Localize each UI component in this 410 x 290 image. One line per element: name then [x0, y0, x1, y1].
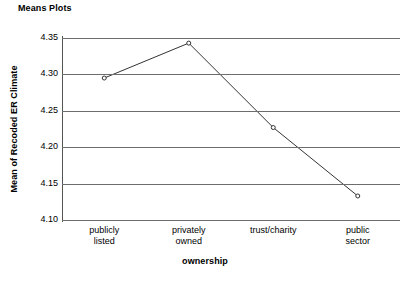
x-tick-label-line: privately	[172, 225, 206, 236]
gridline-4.15	[62, 184, 400, 185]
y-tick-label: 4.35	[28, 33, 58, 42]
chart-title: Means Plots	[18, 3, 72, 13]
y-tick-label: 4.10	[28, 215, 58, 224]
y-axis-title-label: Mean of Recoded ER Climate	[9, 65, 19, 192]
x-tick-label-line: public	[346, 225, 371, 236]
data-point-marker	[187, 41, 191, 45]
data-point-marker	[356, 194, 360, 198]
gridline-4.10	[62, 220, 400, 221]
x-tick-label-line: trust/charity	[250, 225, 297, 236]
gridline-4.20	[62, 147, 400, 148]
x-axis-title: ownership	[0, 256, 410, 266]
y-tick-label: 4.25	[28, 106, 58, 115]
x-tick-label-line: sector	[346, 236, 371, 247]
x-tick-label-line: listed	[89, 236, 119, 247]
gridline-4.25	[62, 111, 400, 112]
series-line-means	[62, 38, 400, 220]
x-tick-label: publiclylisted	[89, 225, 119, 247]
y-tick-label: 4.30	[28, 69, 58, 78]
plot-area	[62, 38, 400, 220]
x-axis-tick-labels: publiclylistedprivatelyownedtrust/charit…	[62, 225, 400, 253]
x-tick-label: privatelyowned	[172, 225, 206, 247]
y-axis-title: Mean of Recoded ER Climate	[6, 38, 22, 220]
x-tick-label-line: owned	[172, 236, 206, 247]
x-tick-label-line: publicly	[89, 225, 119, 236]
y-tick-label: 4.15	[28, 179, 58, 188]
data-point-marker	[271, 126, 275, 130]
gridline-4.30	[62, 74, 400, 75]
gridline-4.35	[62, 38, 400, 39]
data-point-marker	[102, 76, 106, 80]
series-polyline	[104, 43, 358, 196]
x-tick-label: publicsector	[346, 225, 371, 247]
means-plot-chart: Means Plots Mean of Recoded ER Climate 4…	[0, 0, 410, 290]
x-tick-label: trust/charity	[250, 225, 297, 236]
y-tick-label: 4.20	[28, 142, 58, 151]
y-axis-tick-labels: 4.104.154.204.254.304.35	[26, 38, 58, 220]
